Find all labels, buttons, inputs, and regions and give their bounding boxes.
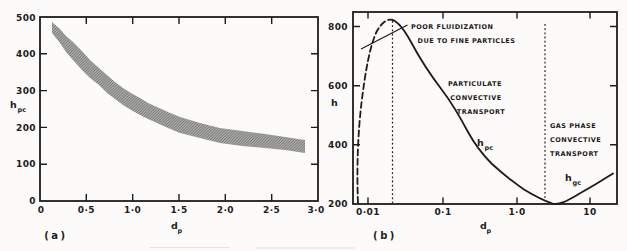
plot-b-caption: (b) (373, 230, 397, 241)
plot-b-xtick-001: 0·01 (356, 207, 380, 217)
plot-b-xtick-10: 1·0 (508, 207, 525, 217)
plot-b-bottom-ticks (368, 198, 590, 205)
plot-a-top-ticks (86, 17, 271, 24)
plot-a-xlabel: d p (171, 220, 183, 235)
plot-b-top-ticks (368, 12, 590, 19)
plot-b-ytick-600: 600 (328, 81, 348, 91)
plot-a-bottom-ticks (86, 194, 271, 201)
plot-a-xlabel-sub: p (178, 227, 183, 235)
plot-a-ytick-300: 300 (16, 86, 36, 96)
annotation-gas-phase-line3: TRANSPORT (550, 150, 599, 158)
plot-a-ytick-0: 0 (29, 196, 36, 206)
plot-b-right-ticks (610, 27, 617, 145)
label-hgc-sub: gc (573, 179, 582, 187)
annotation-poor-fluidization-line1: POOR FLUIDIZATION (411, 23, 494, 31)
label-hgc: h gc (565, 172, 581, 187)
plot-a-right-ticks (311, 54, 318, 164)
plot-a-xtick-20: 2·0 (217, 205, 234, 215)
plot-a-xtick-0: 0 (38, 205, 45, 215)
plot-a-ylabel: h pc (10, 99, 26, 114)
plot-a-xtick-25: 2·5 (263, 205, 280, 215)
plot-b-curve-poor-fluidization-dashed (357, 20, 392, 203)
plot-a-xtick-05: 0·5 (78, 205, 95, 215)
plot-a-xtick-15: 1·5 (170, 205, 187, 215)
figure-heat-transfer-panels: 500 400 300 200 100 0 0 0·5 1·0 1·5 2·0 … (0, 0, 627, 251)
plot-a-ytick-100: 100 (16, 159, 36, 169)
plot-a-ytick-200: 200 (16, 123, 36, 133)
plot-b-ytick-400: 400 (328, 140, 348, 150)
annotation-gas-phase-line2: CONVECTIVE (550, 136, 601, 144)
annotation-particulate-line1: PARTICULATE (448, 80, 502, 88)
plot-b-ytick-800: 800 (328, 22, 348, 32)
plot-b-xtick-01: 0·1 (434, 207, 451, 217)
figure-canvas: 500 400 300 200 100 0 0 0·5 1·0 1·5 2·0 … (0, 0, 627, 251)
plot-b-ytick-200: 200 (328, 199, 348, 209)
plot-a-ylabel-main: h (10, 99, 17, 110)
plot-a-ytick-400: 400 (16, 49, 36, 59)
plot-a-hpc-band (52, 22, 305, 153)
plot-b-leader-line (361, 25, 408, 49)
plot-a-caption: (a) (44, 230, 67, 241)
annotation-poor-fluidization-line2: DUE TO FINE PARTICLES (418, 37, 516, 45)
plot-b-xlabel: d p (480, 220, 492, 235)
plot-a-ytick-500: 500 (16, 13, 36, 23)
plot-b-xtick-ten: 10 (583, 207, 596, 217)
plot-a-xtick-10: 1·0 (124, 205, 141, 215)
scan-artifact (150, 248, 355, 249)
label-hpc-sub: pc (485, 144, 494, 152)
plot-a: 500 400 300 200 100 0 0 0·5 1·0 1·5 2·0 … (10, 13, 325, 242)
plot-b: 800 600 400 200 0·01 0·1 1·0 10 h d p (b… (328, 12, 617, 241)
plot-a-ylabel-sub: pc (18, 106, 27, 114)
annotation-particulate-line2: CONVECTIVE (450, 94, 501, 102)
plot-a-left-ticks (40, 54, 47, 164)
label-hpc-main: h (477, 137, 484, 148)
plot-a-frame (40, 17, 318, 201)
annotation-gas-phase-line1: GAS PHASE (550, 122, 596, 130)
plot-b-xlabel-sub: p (487, 227, 492, 235)
annotation-particulate-line3: TRANSPORT (457, 108, 506, 116)
label-hgc-main: h (565, 172, 572, 183)
plot-a-xtick-30: 3·0 (307, 205, 324, 215)
plot-b-ylabel: h (331, 97, 338, 108)
